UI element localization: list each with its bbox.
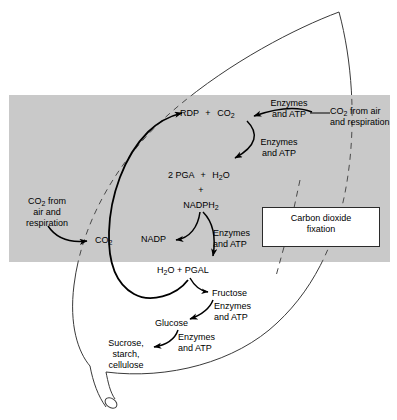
enzymes-atp-4: Enzymes and ATP xyxy=(214,301,251,323)
carbon-dioxide-fixation-callout: Carbon dioxide fixation xyxy=(262,207,380,247)
products-line2: starch, xyxy=(112,349,139,359)
molecule-h2o-pgal: H2O + PGAL xyxy=(157,265,209,276)
enzymes-atp-4-line1: Enzymes xyxy=(214,301,251,311)
label-rdp: RDP xyxy=(180,108,199,118)
co2-right-formula: CO2 from air xyxy=(330,106,380,116)
label-co2-node: CO2 xyxy=(95,235,112,245)
label-co2-cycle: CO2 xyxy=(217,108,234,118)
co2-left-line3: respiration xyxy=(26,218,68,228)
co2-left-label: CO2 from air and respiration xyxy=(8,196,86,229)
label-nadph2: NADPH2 xyxy=(183,200,218,210)
molecule-nadph2: NADPH2 xyxy=(168,200,234,211)
label-h2o-1: H2O xyxy=(212,170,229,180)
fixation-leader-top xyxy=(294,180,300,208)
enzymes-atp-2-line1: Enzymes xyxy=(260,137,297,147)
molecule-pga-h2o: 2 PGA + H2O xyxy=(168,170,230,181)
molecule-glucose: Glucose xyxy=(155,318,188,329)
enzymes-atp-3: Enzymes and ATP xyxy=(213,228,250,250)
plus-3-row: + xyxy=(168,185,234,196)
plus-1: + xyxy=(205,108,210,118)
products-line1: Sucrose, xyxy=(108,338,144,348)
enzymes-atp-5-line1: Enzymes xyxy=(178,332,215,342)
label-glucose: Glucose xyxy=(155,318,188,328)
molecule-nadp: NADP xyxy=(141,234,166,245)
plus-2: + xyxy=(201,170,206,180)
co2-left-formula: CO2 from xyxy=(28,196,66,206)
enzymes-atp-5-line2: and ATP xyxy=(178,343,212,353)
co2-left-line2: air and xyxy=(33,207,61,217)
diagram-canvas: CO2 from air and respiration Enzymes and… xyxy=(0,0,397,420)
molecule-products: Sucrose, starch, cellulose xyxy=(98,338,154,371)
enzymes-atp-2: Enzymes and ATP xyxy=(248,137,310,159)
enzymes-atp-5: Enzymes and ATP xyxy=(178,332,215,354)
label-fructose: Fructose xyxy=(212,288,247,298)
label-pga: 2 PGA xyxy=(168,170,194,180)
plus-3: + xyxy=(198,185,203,195)
co2-node-left: CO2 xyxy=(95,235,112,246)
co2-right-label: CO2 from air and respiration xyxy=(330,106,390,128)
molecule-rdp-co2: RDP + CO2 xyxy=(180,108,235,119)
molecule-fructose: Fructose xyxy=(212,288,247,299)
enzymes-atp-1-line2: and ATP xyxy=(272,109,306,119)
enzymes-atp-2-line2: and ATP xyxy=(262,148,296,158)
label-nadp: NADP xyxy=(141,234,166,244)
products-line3: cellulose xyxy=(108,360,143,370)
fixation-line2: fixation xyxy=(307,224,336,234)
fixation-leader-bottom xyxy=(276,247,284,276)
co2-right-line2: and respiration xyxy=(330,117,390,127)
fixation-line1: Carbon dioxide xyxy=(291,213,352,223)
enzymes-atp-3-line2: and ATP xyxy=(213,239,247,249)
enzymes-atp-1-line1: Enzymes xyxy=(270,98,307,108)
enzymes-atp-1: Enzymes and ATP xyxy=(258,98,320,120)
enzymes-atp-4-line2: and ATP xyxy=(214,312,248,322)
label-h2o-2: H2O + PGAL xyxy=(157,265,209,275)
enzymes-atp-3-line1: Enzymes xyxy=(213,228,250,238)
